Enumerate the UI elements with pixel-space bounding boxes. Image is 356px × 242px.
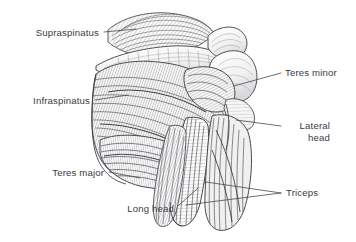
label-triceps: Triceps (286, 187, 318, 198)
label-lateral-head-line1: Lateral (300, 120, 330, 131)
label-teres-minor: Teres minor (285, 67, 337, 78)
anatomy-illustration-svg: Supraspinatus Infraspinatus Teres major … (0, 0, 356, 242)
anatomy-figure: Supraspinatus Infraspinatus Teres major … (0, 0, 356, 242)
label-supraspinatus: Supraspinatus (36, 27, 99, 38)
label-lateral-head-line2: head (308, 132, 330, 143)
label-long-head: Long head (127, 203, 174, 214)
label-infraspinatus: Infraspinatus (33, 95, 90, 106)
label-teres-major: Teres major (52, 167, 104, 178)
